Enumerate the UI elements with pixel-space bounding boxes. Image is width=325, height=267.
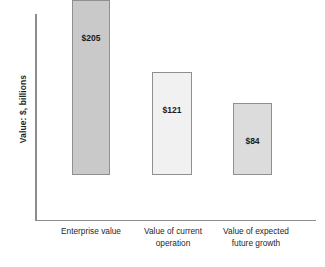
bar-chart: Value: $, billions $205 $121 $84 Enterpr… [0, 0, 325, 267]
x-axis-label-line-2: operation [127, 238, 219, 250]
bar-value-label-value-of-expected-future-growth: $84 [233, 136, 272, 146]
x-axis-label-line-1: Value of expected [207, 226, 305, 238]
bar-value-label-value-of-current-operation: $121 [152, 105, 192, 115]
bar-enterprise-value[interactable] [72, 0, 110, 175]
bar-value-of-current-operation[interactable] [152, 72, 192, 175]
bar-value-label-enterprise-value: $205 [72, 33, 110, 43]
x-axis-label-value-of-current-operation: Value of current operation [127, 226, 219, 249]
x-axis-label-line-2: future growth [207, 238, 305, 250]
x-axis-label-line-1: Value of current [127, 226, 219, 238]
x-axis-label-value-of-expected-future-growth: Value of expected future growth [207, 226, 305, 249]
